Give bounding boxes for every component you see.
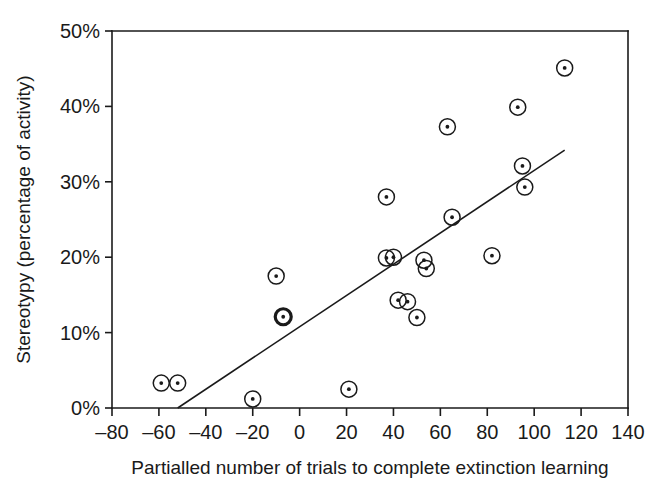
- marker-center-dot: [415, 316, 419, 320]
- data-point-marker: [510, 99, 526, 115]
- marker-center-dot: [406, 300, 410, 304]
- axis-lines: [112, 31, 628, 408]
- marker-center-dot: [424, 267, 428, 271]
- y-tick-label: 0%: [71, 397, 100, 419]
- axis-tick-marks: [105, 31, 628, 416]
- x-tick-label: –40: [189, 421, 222, 443]
- trend-line: [178, 150, 565, 408]
- marker-center-dot: [450, 215, 454, 219]
- marker-center-dot: [347, 387, 351, 391]
- marker-center-dot: [176, 381, 180, 385]
- marker-center-dot: [385, 195, 389, 199]
- data-point-marker: [484, 248, 500, 264]
- y-tick-label: 10%: [60, 322, 100, 344]
- data-point-marker: [153, 375, 169, 391]
- data-point-marker: [418, 261, 434, 277]
- x-axis-tick-labels: –80–60–40–20020406080100120140: [95, 421, 644, 443]
- marker-center-dot: [274, 274, 278, 278]
- data-point-marker: [439, 119, 455, 135]
- x-tick-label: –80: [95, 421, 128, 443]
- scatter-plot-figure: 0%10%20%30%40%50% –80–60–40–200204060801…: [0, 0, 663, 486]
- data-point-marker: [245, 391, 261, 407]
- y-tick-label: 20%: [60, 246, 100, 268]
- marker-center-dot: [251, 397, 255, 401]
- data-point-marker: [557, 60, 573, 76]
- data-point-marker: [444, 209, 460, 225]
- x-tick-label: 140: [611, 421, 644, 443]
- y-tick-label: 50%: [60, 20, 100, 42]
- marker-center-dot: [563, 66, 567, 70]
- marker-center-dot: [392, 255, 396, 259]
- x-tick-label: 100: [517, 421, 550, 443]
- data-point-marker: [409, 310, 425, 326]
- data-point-marker: [341, 381, 357, 397]
- x-tick-label: 120: [564, 421, 597, 443]
- marker-center-dot: [516, 105, 520, 109]
- y-tick-label: 40%: [60, 95, 100, 117]
- plot-canvas: 0%10%20%30%40%50% –80–60–40–200204060801…: [0, 0, 663, 486]
- regression-trend-line: [178, 150, 565, 408]
- data-point-marker: [517, 179, 533, 195]
- x-tick-label: –20: [236, 421, 269, 443]
- y-axis-title: Stereotypy (percentage of activity): [13, 75, 34, 363]
- x-tick-label: 40: [382, 421, 404, 443]
- x-tick-label: 0: [294, 421, 305, 443]
- x-tick-label: –60: [142, 421, 175, 443]
- marker-center-dot: [521, 164, 525, 168]
- x-tick-label: 60: [429, 421, 451, 443]
- x-tick-label: 80: [476, 421, 498, 443]
- y-tick-label: 30%: [60, 171, 100, 193]
- data-point-marker: [268, 268, 284, 284]
- data-point-marker: [514, 158, 530, 174]
- data-point-marker: [275, 309, 291, 325]
- marker-center-dot: [446, 125, 450, 129]
- y-axis-tick-labels: 0%10%20%30%40%50%: [60, 20, 100, 419]
- marker-center-dot: [523, 185, 527, 189]
- marker-center-dot: [490, 254, 494, 258]
- data-point-marker: [378, 189, 394, 205]
- x-axis-title: Partialled number of trials to complete …: [131, 457, 608, 478]
- marker-center-dot: [281, 315, 285, 319]
- data-point-markers: [153, 60, 572, 407]
- data-point-marker: [400, 294, 416, 310]
- marker-center-dot: [159, 381, 163, 385]
- data-point-marker: [170, 375, 186, 391]
- x-tick-label: 20: [335, 421, 357, 443]
